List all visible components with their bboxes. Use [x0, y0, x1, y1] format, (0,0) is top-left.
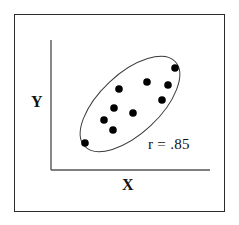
correlation-annotation: r = .85 — [148, 136, 190, 153]
data-point — [100, 116, 108, 124]
data-point — [164, 81, 172, 89]
data-point — [115, 85, 123, 93]
data-point — [143, 78, 151, 86]
data-point — [171, 64, 179, 72]
data-point — [109, 126, 117, 134]
data-point — [81, 139, 89, 147]
x-axis-label: X — [122, 177, 134, 193]
data-point — [129, 109, 137, 117]
scatterplot-figure: Y X r = .85 — [0, 0, 239, 225]
data-points-group — [81, 64, 179, 147]
plot-canvas — [0, 0, 239, 225]
data-point — [110, 104, 118, 112]
y-axis-label: Y — [31, 94, 43, 110]
data-point — [158, 96, 166, 104]
